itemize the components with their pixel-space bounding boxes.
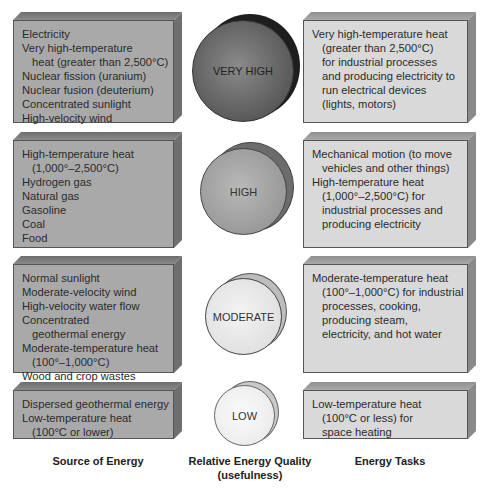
box-side-face — [468, 256, 476, 373]
task-line: producing steam, — [312, 313, 467, 327]
task-line: (100°C or less) for — [312, 411, 467, 425]
box-side-face — [468, 382, 476, 439]
source-line: Moderate-velocity wind — [22, 285, 173, 299]
source-line: Food — [22, 231, 173, 245]
task-line: run electrical devices — [312, 83, 467, 97]
quality-sphere-moderate: MODERATE — [203, 273, 287, 357]
source-box-moderate: Normal sunlightModerate-velocity windHig… — [13, 256, 182, 373]
source-line: Concentrated — [22, 313, 173, 327]
caption-tasks: Energy Tasks — [320, 454, 460, 468]
caption-tasks-text: Energy Tasks — [355, 455, 426, 467]
source-line: Electricity — [22, 27, 173, 41]
source-line: Concentrated sunlight — [22, 97, 173, 111]
source-line: Gasoline — [22, 203, 173, 217]
source-line: Coal — [22, 217, 173, 231]
source-box-very-high: ElectricityVery high-temperatureheat (gr… — [13, 12, 182, 123]
box-top-face — [13, 132, 182, 140]
box-side-face — [174, 382, 182, 439]
task-line: for industrial processes — [312, 55, 467, 69]
task-line: Mechanical motion (to move — [312, 147, 467, 161]
source-line: Wood and crop wastes — [22, 369, 173, 383]
box-top-face — [303, 382, 476, 390]
task-box-low: Low-temperature heat(100°C or less) fors… — [303, 382, 476, 439]
task-line: (100°–1,000°C) for industrial — [312, 285, 467, 299]
source-line: (1,000°–2,500°C) — [22, 161, 173, 175]
task-line: Very high-temperature heat — [312, 27, 467, 41]
caption-quality-line2: (usefulness) — [218, 469, 283, 481]
source-list: Dispersed geothermal energyLow-temperatu… — [13, 390, 174, 439]
box-side-face — [174, 132, 182, 248]
box-top-face — [13, 256, 182, 264]
caption-source: Source of Energy — [28, 454, 168, 468]
quality-label: MODERATE — [213, 311, 275, 323]
source-box-low: Dispersed geothermal energyLow-temperatu… — [13, 382, 182, 439]
task-line: (lights, motors) — [312, 97, 467, 111]
source-box-high: High-temperature heat(1,000°–2,500°C)Hyd… — [13, 132, 182, 248]
task-box-very-high: Very high-temperature heat(greater than … — [303, 12, 476, 123]
task-line: High-temperature heat — [312, 175, 467, 189]
box-top-face — [13, 12, 182, 20]
source-line: Low-temperature heat — [22, 411, 173, 425]
source-line: High-temperature heat — [22, 147, 173, 161]
source-line: Moderate-temperature heat — [22, 341, 173, 355]
source-line: Very high-temperature — [22, 41, 173, 55]
task-box-moderate: Moderate-temperature heat(100°–1,000°C) … — [303, 256, 476, 373]
box-side-face — [174, 256, 182, 373]
source-line: Nuclear fission (uranium) — [22, 69, 173, 83]
quality-label: VERY HIGH — [213, 65, 273, 77]
sphere-face: LOW — [214, 385, 275, 446]
task-line: processes, cooking, — [312, 299, 467, 313]
source-line: Nuclear fusion (deuterium) — [22, 83, 173, 97]
sphere-face: MODERATE — [205, 278, 282, 355]
quality-sphere-high: HIGH — [198, 142, 294, 238]
sphere-face: HIGH — [200, 148, 287, 235]
task-box-high: Mechanical motion (to movevehicles and o… — [303, 132, 476, 248]
task-line: (greater than 2,500°C) — [312, 41, 467, 55]
task-line: space heating — [312, 425, 467, 439]
task-line: industrial processes and — [312, 203, 467, 217]
quality-sphere-low: LOW — [213, 381, 279, 447]
task-line: Low-temperature heat — [312, 397, 467, 411]
quality-sphere-very-high: VERY HIGH — [188, 14, 304, 124]
source-line: High-velocity wind — [22, 111, 173, 125]
source-line: Hydrogen gas — [22, 175, 173, 189]
source-line: heat (greater than 2,500°C) — [22, 55, 173, 69]
task-line: electricity, and hot water — [312, 327, 467, 341]
caption-source-text: Source of Energy — [52, 455, 143, 467]
caption-quality: Relative Energy Quality (usefulness) — [180, 454, 320, 482]
source-line: Dispersed geothermal energy — [22, 397, 173, 411]
source-line: Normal sunlight — [22, 271, 173, 285]
source-line: (100°C or lower) — [22, 425, 173, 439]
quality-label: HIGH — [230, 186, 258, 198]
task-list: Moderate-temperature heat(100°–1,000°C) … — [303, 264, 468, 373]
task-line: and producing electricity to — [312, 69, 467, 83]
task-list: Mechanical motion (to movevehicles and o… — [303, 140, 468, 248]
source-list: ElectricityVery high-temperatureheat (gr… — [13, 20, 174, 123]
task-line: producing electricity — [312, 217, 467, 231]
caption-quality-line1: Relative Energy Quality — [189, 455, 312, 467]
task-list: Low-temperature heat(100°C or less) fors… — [303, 390, 468, 439]
box-top-face — [13, 382, 182, 390]
source-line: Natural gas — [22, 189, 173, 203]
sphere-face: VERY HIGH — [192, 20, 294, 122]
task-line: (1,000°–2,500°C) for — [312, 189, 467, 203]
source-line: geothermal energy — [22, 327, 173, 341]
source-line: High-velocity water flow — [22, 299, 173, 313]
box-side-face — [174, 12, 182, 123]
source-list: High-temperature heat(1,000°–2,500°C)Hyd… — [13, 140, 174, 248]
source-list: Normal sunlightModerate-velocity windHig… — [13, 264, 174, 373]
box-top-face — [303, 256, 476, 264]
task-list: Very high-temperature heat(greater than … — [303, 20, 468, 123]
box-top-face — [303, 132, 476, 140]
task-line: vehicles and other things) — [312, 161, 467, 175]
box-side-face — [468, 12, 476, 123]
box-side-face — [468, 132, 476, 248]
source-line: (100°–1,000°C) — [22, 355, 173, 369]
quality-label: LOW — [232, 410, 257, 422]
task-line: Moderate-temperature heat — [312, 271, 467, 285]
box-top-face — [303, 12, 476, 20]
